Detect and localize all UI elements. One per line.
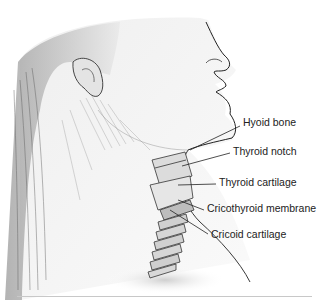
label-cricothyroid-membrane: Cricothyroid membrane [207, 203, 316, 214]
label-thyroid-notch: Thyroid notch [233, 146, 297, 157]
label-hyoid-bone: Hyoid bone [243, 117, 296, 128]
label-thyroid-cartilage: Thyroid cartilage [219, 177, 297, 188]
bottom-divider [17, 296, 312, 297]
label-cricoid-cartilage: Cricoid cartilage [211, 229, 286, 240]
